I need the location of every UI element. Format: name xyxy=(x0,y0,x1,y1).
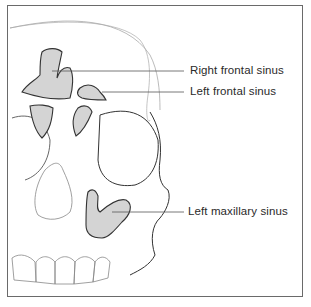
right-frontal-sinus-shape xyxy=(22,49,73,99)
nasal-cavity xyxy=(35,163,72,219)
zygomatic-contour xyxy=(130,112,169,275)
teeth xyxy=(12,255,110,284)
label-left-frontal-sinus: Left frontal sinus xyxy=(190,85,276,97)
left-orbit xyxy=(98,111,158,185)
left-maxillary-sinus-shape xyxy=(86,190,130,238)
left-frontal-sinus-shape xyxy=(78,85,106,100)
skull-diagram xyxy=(0,0,311,307)
label-right-frontal-sinus: Right frontal sinus xyxy=(190,64,284,76)
left-ethmoid-shape xyxy=(73,106,92,136)
right-ethmoid-shape xyxy=(30,105,53,138)
label-left-maxillary-sinus: Left maxillary sinus xyxy=(188,205,288,217)
